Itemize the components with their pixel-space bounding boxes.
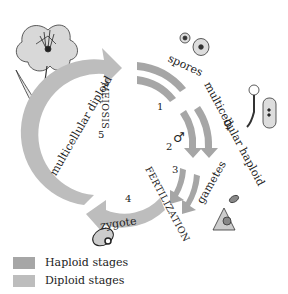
life-cycle-diagram: MEIOSIS spores multicellular haploid gam… (0, 0, 288, 294)
step-2: 2 (166, 142, 172, 152)
haploid-swatch (13, 257, 35, 269)
haploid-legend-label: Haploid stages (45, 256, 128, 269)
step-4: 4 (125, 194, 131, 204)
diploid-legend-label: Diploid stages (45, 274, 124, 287)
step-5: 5 (98, 130, 104, 140)
male-symbol-icon: ♂ (173, 131, 185, 144)
step-1: 1 (157, 102, 163, 112)
spore-cells-icon (180, 33, 209, 56)
legend-haploid: Haploid stages (13, 256, 128, 269)
legend-diploid: Diploid stages (13, 274, 124, 287)
step-3: 3 (172, 165, 178, 175)
female-symbol-icon: ♀ (223, 118, 233, 131)
gametophyte-cells-icon (247, 85, 276, 128)
gamete-cells-icon (213, 194, 240, 230)
diploid-swatch (13, 275, 35, 287)
